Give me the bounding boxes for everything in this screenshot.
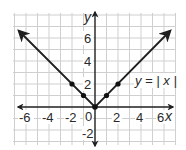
x-tick-neg4: -4 [42,110,54,125]
origin-label: 0 [85,109,92,124]
x-tick-6: 6 [157,110,164,125]
function-label: y = | x | [134,73,177,88]
y-axis-label: y [83,9,92,25]
point-origin [92,104,98,110]
y-tick-neg2: -2 [82,126,94,141]
x-tick-neg2: -2 [65,110,77,125]
point-neg1-1 [81,93,86,98]
y-tick-6: 6 [84,31,91,46]
graph-svg: -6 -4 -2 0 2 4 6 x -2 2 4 6 y y = | x | [0,0,186,150]
x-tick-2: 2 [113,110,120,125]
x-tick-neg6: -6 [19,110,31,125]
y-tick-2: 2 [84,77,91,92]
point-2-2 [115,81,120,86]
absolute-value-graph: -6 -4 -2 0 2 4 6 x -2 2 4 6 y y = | x | [0,0,186,150]
point-neg2-2 [69,81,74,86]
point-1-1 [104,93,109,98]
x-axis-label: x [164,108,173,124]
x-tick-4: 4 [136,110,143,125]
y-tick-4: 4 [84,54,91,69]
